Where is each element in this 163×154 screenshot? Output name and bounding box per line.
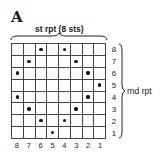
stitch-chart-grid xyxy=(11,43,106,139)
chart-cell xyxy=(47,44,59,56)
purl-dot-icon xyxy=(16,95,20,99)
chart-cell xyxy=(83,115,95,127)
column-number: 6 xyxy=(35,141,47,150)
purl-dot-icon xyxy=(98,83,102,87)
chart-cell xyxy=(47,80,59,92)
chart-cell xyxy=(71,103,83,115)
purl-dot-icon xyxy=(63,48,67,52)
purl-dot-icon xyxy=(86,95,90,99)
chart-cell xyxy=(36,103,48,115)
purl-dot-icon xyxy=(74,107,78,111)
chart-cell xyxy=(12,44,24,56)
chart-cell xyxy=(83,103,95,115)
chart-cell xyxy=(94,68,106,80)
stitch-repeat-brace-icon xyxy=(10,33,108,41)
chart-label: A xyxy=(11,10,23,25)
chart-cell xyxy=(71,44,83,56)
chart-cell xyxy=(83,80,95,92)
chart-cell xyxy=(24,127,36,139)
chart-cell xyxy=(12,103,24,115)
chart-cell xyxy=(12,68,24,80)
chart-cell xyxy=(94,92,106,104)
column-number: 3 xyxy=(70,141,82,150)
chart-cell xyxy=(59,68,71,80)
purl-dot-icon xyxy=(39,119,43,123)
chart-cell xyxy=(24,115,36,127)
chart-cell xyxy=(59,56,71,68)
purl-dot-icon xyxy=(63,119,67,123)
column-number: 5 xyxy=(47,141,59,150)
chart-cell xyxy=(24,68,36,80)
chart-cell xyxy=(59,44,71,56)
chart-cell xyxy=(12,92,24,104)
chart-cell xyxy=(12,127,24,139)
chart-cell xyxy=(47,56,59,68)
chart-cell xyxy=(94,44,106,56)
chart-cell xyxy=(47,68,59,80)
chart-cell xyxy=(71,68,83,80)
column-number: 8 xyxy=(11,141,23,150)
chart-cell xyxy=(24,44,36,56)
chart-cell xyxy=(36,127,48,139)
column-number: 7 xyxy=(23,141,35,150)
chart-cell xyxy=(59,92,71,104)
column-number: 4 xyxy=(59,141,71,150)
chart-cell xyxy=(47,103,59,115)
chart-cell xyxy=(71,80,83,92)
round-repeat-brace-icon xyxy=(118,43,126,139)
purl-dot-icon xyxy=(51,131,55,135)
chart-cell xyxy=(59,103,71,115)
chart-cell xyxy=(12,80,24,92)
chart-cell xyxy=(47,92,59,104)
purl-dot-icon xyxy=(39,48,43,52)
chart-cell xyxy=(12,56,24,68)
chart-cell xyxy=(94,115,106,127)
chart-cell xyxy=(12,115,24,127)
chart-cell xyxy=(36,92,48,104)
chart-cell xyxy=(71,115,83,127)
purl-dot-icon xyxy=(27,60,31,64)
chart-cell xyxy=(59,127,71,139)
chart-cell xyxy=(71,92,83,104)
purl-dot-icon xyxy=(27,107,31,111)
purl-dot-icon xyxy=(86,71,90,75)
chart-cell xyxy=(71,56,83,68)
chart-cell xyxy=(36,56,48,68)
chart-cell xyxy=(36,44,48,56)
chart-cell xyxy=(36,80,48,92)
chart-cell xyxy=(94,127,106,139)
chart-cell xyxy=(83,127,95,139)
purl-dot-icon xyxy=(74,60,78,64)
chart-cell xyxy=(83,44,95,56)
chart-cell xyxy=(47,127,59,139)
chart-cell xyxy=(83,68,95,80)
purl-dot-icon xyxy=(16,71,20,75)
chart-cell xyxy=(94,56,106,68)
chart-cell xyxy=(94,80,106,92)
column-number: 1 xyxy=(94,141,106,150)
chart-cell xyxy=(36,115,48,127)
round-repeat-label: rnd rpt xyxy=(127,86,152,96)
chart-cell xyxy=(24,103,36,115)
chart-cell xyxy=(24,56,36,68)
chart-cell xyxy=(47,115,59,127)
chart-cell xyxy=(24,92,36,104)
chart-cell xyxy=(24,80,36,92)
column-numbers: 87654321 xyxy=(11,141,106,150)
chart-cell xyxy=(59,80,71,92)
chart-cell xyxy=(36,68,48,80)
chart-cell xyxy=(83,56,95,68)
chart-cell xyxy=(83,92,95,104)
chart-cell xyxy=(94,103,106,115)
chart-cell xyxy=(71,127,83,139)
chart-cell xyxy=(59,115,71,127)
column-number: 2 xyxy=(82,141,94,150)
